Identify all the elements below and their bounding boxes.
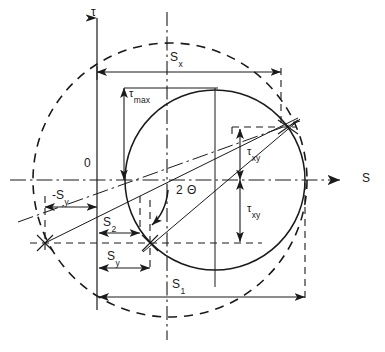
label-tau-xy-lower: τxy bbox=[247, 203, 260, 217]
label-angle-2theta: 2 Θ bbox=[176, 184, 197, 196]
label-sigma-x: Sx bbox=[170, 51, 182, 66]
label-sigma-2: S2 bbox=[103, 216, 116, 231]
diagram-canvas bbox=[0, 0, 385, 352]
mohr-circle-diagram: τ S 0 Sx τmax τxy τxy -Sy S2 Sy S1 2 Θ bbox=[0, 0, 385, 352]
label-tau-xy-upper: τxy bbox=[247, 146, 260, 160]
label-tau-max: τmax bbox=[129, 88, 149, 102]
label-sigma-y: Sy bbox=[107, 250, 119, 265]
angle-arc-2theta bbox=[152, 190, 168, 225]
axis-label-tau: τ bbox=[91, 6, 96, 18]
axis-label-s: S bbox=[362, 172, 370, 184]
label-negative-sigma-y: -Sy bbox=[52, 189, 68, 204]
label-sigma-1: S1 bbox=[172, 278, 185, 293]
origin-label: 0 bbox=[84, 157, 91, 169]
